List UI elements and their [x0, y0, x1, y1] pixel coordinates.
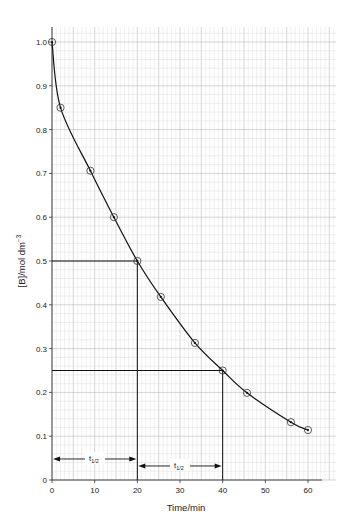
- y-tick-label: 0.1: [36, 432, 48, 441]
- y-tick-label: 0.9: [36, 82, 48, 91]
- y-tick-label: 0.3: [36, 345, 48, 354]
- x-tick-label: 60: [304, 486, 313, 495]
- graph-paper-grid: [52, 27, 336, 480]
- data-point-marker: [191, 339, 198, 346]
- y-tick-label: 0: [43, 476, 48, 485]
- y-tick-label: 0.7: [36, 169, 48, 178]
- y-tick-label: 0.8: [36, 126, 48, 135]
- x-tick-label: 20: [133, 486, 142, 495]
- axes: [52, 27, 322, 480]
- half-life-chart: 010203040506000.10.20.30.40.50.60.70.80.…: [0, 0, 347, 527]
- half-life-label-2: t1/2: [170, 459, 190, 471]
- y-tick-label: 0.5: [36, 257, 48, 266]
- x-tick-label: 10: [90, 486, 99, 495]
- y-axis-label-superscript: −3: [15, 234, 22, 242]
- y-tick-label: 0.2: [36, 388, 48, 397]
- x-tick-label: 50: [261, 486, 270, 495]
- x-tick-label: 0: [50, 486, 55, 495]
- half-life-label-1: t1/2: [85, 452, 105, 464]
- data-point-marker: [157, 293, 164, 300]
- x-axis-label: Time/min: [167, 502, 206, 513]
- y-tick-label: 0.6: [36, 213, 48, 222]
- y-tick-label: 0.4: [36, 301, 48, 310]
- data-point-marker: [243, 389, 250, 396]
- y-axis-label: [B]/mol dm−3: [15, 234, 27, 287]
- x-tick-label: 40: [218, 486, 227, 495]
- svg-text:[B]/mol dm−3: [B]/mol dm−3: [15, 234, 27, 287]
- y-tick-label: 1.0: [36, 38, 48, 47]
- x-tick-label: 30: [176, 486, 185, 495]
- y-axis-label-main: [B]/mol dm: [16, 242, 27, 287]
